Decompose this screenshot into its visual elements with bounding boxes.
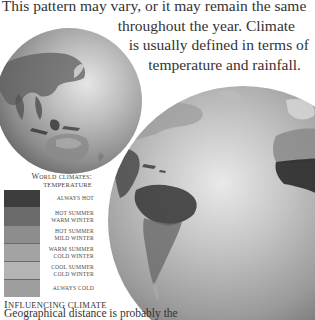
legend-swatch xyxy=(4,190,40,208)
legend-label: ALWAYS HOT xyxy=(42,190,94,207)
legend-title: World climates: temperature xyxy=(28,173,92,188)
legend-label: ALWAYS COLD xyxy=(42,280,94,297)
legend-item-always-cold: ALWAYS COLD xyxy=(4,280,96,298)
legend-swatch xyxy=(4,208,40,226)
intro-line: This pattern may vary, or it may remain … xyxy=(0,0,309,16)
legend-item-cool-summer-cold-winter: COOL SUMMERCOLD WINTER xyxy=(4,262,96,280)
legend-title-line2: temperature xyxy=(28,181,92,189)
climate-legend: ALWAYS HOT HOT SUMMERWARM WINTER HOT SUM… xyxy=(4,190,96,298)
legend-swatch xyxy=(4,244,40,262)
legend-label: COOL SUMMERCOLD WINTER xyxy=(42,262,94,279)
legend-swatch xyxy=(4,226,40,244)
legend-label: HOT SUMMERWARM WINTER xyxy=(42,208,94,225)
legend-swatch xyxy=(4,280,40,297)
legend-title-line1: World climates: xyxy=(28,173,92,181)
legend-item-hot-summer-warm-winter: HOT SUMMERWARM WINTER xyxy=(4,208,96,226)
legend-item-always-hot: ALWAYS HOT xyxy=(4,190,96,208)
legend-swatch xyxy=(4,262,40,280)
legend-item-warm-summer-cold-winter: WARM SUMMERCOLD WINTER xyxy=(4,244,96,262)
body-text: Geographical distance is probably the xyxy=(4,307,174,319)
legend-label: HOT SUMMERMILD WINTER xyxy=(42,226,94,243)
legend-item-hot-summer-mild-winter: HOT SUMMERMILD WINTER xyxy=(4,226,96,244)
globe-americas-africa-image xyxy=(108,86,315,320)
legend-label: WARM SUMMERCOLD WINTER xyxy=(42,244,94,261)
continents-americas-africa-icon xyxy=(108,86,315,320)
